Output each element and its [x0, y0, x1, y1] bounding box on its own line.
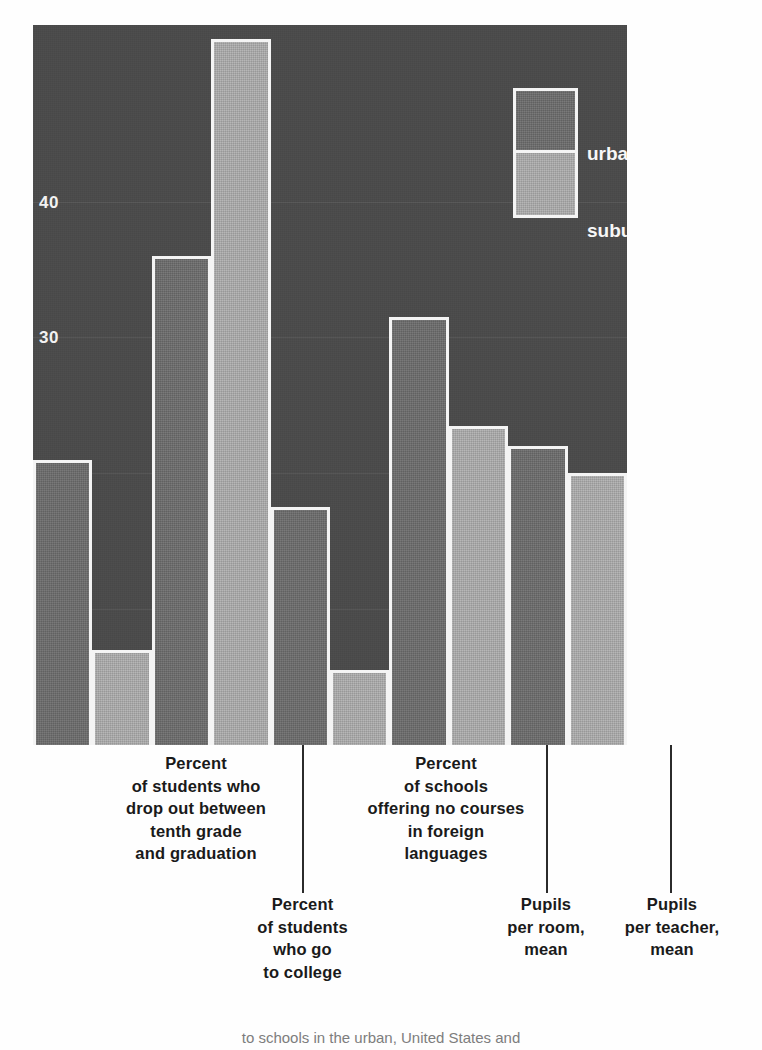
- category-label-foreign-languages: Percent of schools offering no courses i…: [330, 752, 562, 865]
- figure-caption: to schools in the urban, United States a…: [0, 1028, 762, 1048]
- legend-swatch-box: [513, 88, 578, 218]
- legend-label-suburban: suburban: [587, 221, 627, 240]
- category-label-dropout: Percent of students who drop out between…: [82, 752, 310, 865]
- bar-suburban-group-0: [92, 650, 151, 745]
- gridline-30: [33, 337, 627, 338]
- bar-urban-group-3: [389, 317, 448, 745]
- bar-urban-group-0: [33, 460, 92, 745]
- bar-suburban-group-1: [211, 39, 270, 745]
- category-label-college: Percent of students who go to college: [205, 893, 400, 983]
- y-tick-label-30: 30: [39, 329, 59, 346]
- chart-legend: urban suburban: [480, 88, 627, 248]
- bar-suburban-group-4: [568, 473, 627, 745]
- legend-label-urban: urban: [587, 144, 627, 163]
- legend-swatch-suburban: [516, 153, 575, 215]
- bar-suburban-group-2: [330, 670, 389, 745]
- leader-line-pupils-teach: [670, 745, 672, 893]
- bar-urban-group-4: [508, 446, 567, 745]
- bar-chart-plot-area: 10203040 urban suburban: [33, 25, 627, 745]
- bar-urban-group-2: [271, 507, 330, 745]
- legend-swatch-urban: [516, 91, 575, 153]
- bar-urban-group-1: [152, 256, 211, 745]
- chart-page: 10203040 urban suburban Percent of stude…: [0, 0, 762, 1050]
- bar-suburban-group-3: [449, 426, 508, 745]
- category-label-pupils-per-teacher: Pupils per teacher, mean: [592, 893, 752, 961]
- y-tick-label-40: 40: [39, 194, 59, 211]
